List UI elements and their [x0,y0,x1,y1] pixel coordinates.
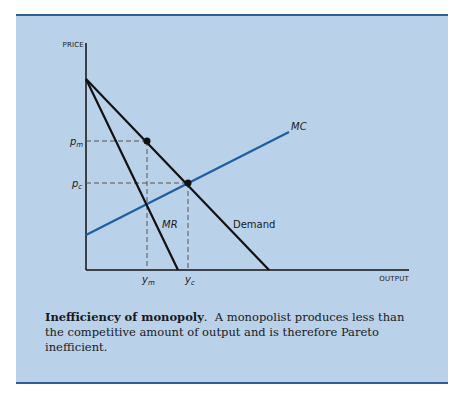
mr-label: MR [162,219,178,230]
demand-label: Demand [233,219,275,230]
pm-label: pm [69,136,83,149]
dashed-guides [86,141,188,270]
monopoly-point [144,138,151,145]
mc-label: MC [291,121,307,132]
demand-curve [86,79,269,270]
mr-curve [86,79,178,270]
y-axis-title: PRICE [63,41,84,49]
ym-label: ym [141,274,155,287]
competitive-point [185,180,192,187]
pc-label: pc [71,178,82,191]
figure-caption: Inefficiency of monopoly. A monopolist p… [45,310,425,355]
x-axis-title: OUTPUT [379,275,409,283]
yc-label: yc [184,274,195,287]
caption-title: Inefficiency of monopoly [45,310,204,324]
